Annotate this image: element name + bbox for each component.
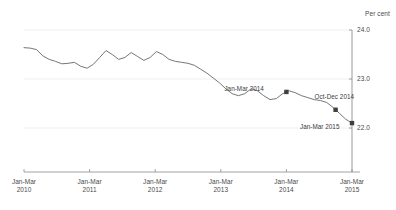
x-tick-label: Jan-Mar2012 bbox=[131, 178, 179, 194]
data-point-marker bbox=[284, 90, 288, 94]
x-tick-label-line1: Jan-Mar bbox=[197, 178, 245, 186]
x-tick-label-line1: Jan-Mar bbox=[131, 178, 179, 186]
x-tick-label-line2: 2012 bbox=[131, 186, 179, 194]
x-tick-label-line1: Jan-Mar bbox=[262, 178, 310, 186]
x-tick-label-line1: Jan-Mar bbox=[328, 178, 376, 186]
annotation-label: Oct-Dec 2014 bbox=[315, 93, 354, 100]
x-tick-label-line1: Jan-Mar bbox=[66, 178, 114, 186]
data-point-marker bbox=[333, 108, 337, 112]
data-point-marker bbox=[350, 121, 354, 125]
annotation-label: Jan-Mar 2014 bbox=[224, 85, 263, 92]
x-tick-label-line2: 2015 bbox=[328, 186, 376, 194]
y-tick-label: 22.0 bbox=[357, 124, 370, 131]
x-tick-label-line1: Jan-Mar bbox=[0, 178, 48, 186]
data-series-line bbox=[24, 48, 352, 123]
x-axis-ticks bbox=[24, 169, 352, 172]
chart-container: Per cent 24.023.022.0 Jan-Mar2010Jan-Mar… bbox=[0, 0, 396, 210]
gridlines bbox=[24, 30, 352, 128]
x-tick-label-line2: 2011 bbox=[66, 186, 114, 194]
x-tick-label-line2: 2010 bbox=[0, 186, 48, 194]
x-tick-label: Jan-Mar2015 bbox=[328, 178, 376, 194]
x-tick-label-line2: 2013 bbox=[197, 186, 245, 194]
x-tick-label: Jan-Mar2010 bbox=[0, 178, 48, 194]
x-tick-label: Jan-Mar2011 bbox=[66, 178, 114, 194]
x-tick-label: Jan-Mar2014 bbox=[262, 178, 310, 194]
y-tick-label: 23.0 bbox=[357, 75, 370, 82]
axes bbox=[24, 30, 360, 172]
x-tick-label-line2: 2014 bbox=[262, 186, 310, 194]
annotation-label: Jan-Mar 2015 bbox=[300, 123, 339, 130]
x-tick-label: Jan-Mar2013 bbox=[197, 178, 245, 194]
y-axis-unit-label: Per cent bbox=[365, 10, 390, 17]
y-tick-label: 24.0 bbox=[357, 26, 370, 33]
